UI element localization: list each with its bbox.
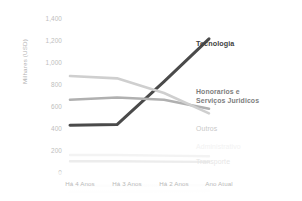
y-tick-label: 800 xyxy=(22,81,62,88)
series-line-tecnologia xyxy=(70,39,209,125)
y-axis-tick-labels: 1,400 1,200 1,000 800 600 400 200 0 xyxy=(22,0,62,201)
y-tick-label: 0 xyxy=(22,169,62,176)
series-line-administrativo xyxy=(70,155,209,156)
x-tick-label: Há 2 Anos xyxy=(159,180,188,187)
series-line-transporte xyxy=(70,161,209,162)
series-lines xyxy=(70,39,209,162)
y-tick-label: 200 xyxy=(22,147,62,154)
series-label-honorarios-line1: Honorarios e xyxy=(196,88,240,97)
plot-area xyxy=(64,14,210,172)
y-tick-label: 1,200 xyxy=(22,37,62,44)
series-label-tecnologia: Tecnologia xyxy=(196,40,234,49)
series-canvas xyxy=(64,14,210,172)
series-label-administrativo: Administrativo xyxy=(196,143,241,152)
series-label-group: Tecnologia Honorarios e Serviços Juridic… xyxy=(196,0,302,201)
y-tick-label: 600 xyxy=(22,103,62,110)
series-label-honorarios-line2: Serviços Juridicos xyxy=(196,97,259,106)
line-chart: Milhares (USD) 1,400 1,200 1,000 800 600… xyxy=(0,0,302,201)
series-label-transporte: Transporte xyxy=(196,158,230,167)
x-tick-label: Há 3 Anos xyxy=(112,180,141,187)
y-tick-label: 400 xyxy=(22,125,62,132)
series-label-outros: Outros xyxy=(196,125,217,134)
y-tick-label: 1,000 xyxy=(22,59,62,66)
x-tick-label: Há 4 Anos xyxy=(65,180,94,187)
series-line-outros xyxy=(70,76,209,113)
y-tick-label: 1,400 xyxy=(22,15,62,22)
